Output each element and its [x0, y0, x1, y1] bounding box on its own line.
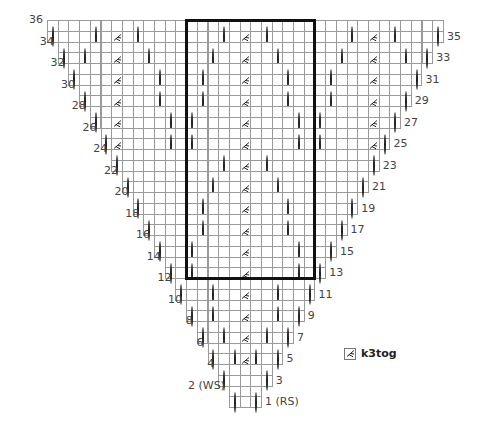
row-label-14: 14	[147, 251, 161, 262]
row-label-30: 30	[61, 79, 75, 90]
knitting-chart: 3635343332313029282726252423222120191817…	[0, 0, 477, 424]
legend: k3tog	[344, 347, 397, 360]
chart-cell	[336, 224, 348, 236]
yarn-over-icon	[405, 92, 407, 111]
row-label-13: 13	[329, 267, 343, 278]
chart-cell	[368, 160, 380, 172]
chart-cell	[411, 74, 423, 86]
yarn-over-icon	[266, 371, 268, 390]
row-label-16: 16	[136, 229, 150, 240]
yarn-over-icon	[437, 27, 439, 46]
row-label-4: 4	[207, 358, 214, 369]
yarn-over-icon	[319, 264, 321, 283]
yarn-over-icon	[287, 328, 289, 347]
row-label-9: 9	[308, 310, 315, 321]
chart-cell	[315, 267, 327, 279]
yarn-over-icon	[373, 156, 375, 175]
row-label-10: 10	[168, 294, 182, 305]
yarn-over-icon	[309, 285, 311, 304]
chart-cell	[272, 353, 284, 365]
chart-cell	[357, 181, 369, 193]
chart-cell	[261, 375, 273, 387]
yarn-over-icon	[394, 113, 396, 132]
yarn-over-icon	[351, 199, 353, 218]
row-label-24: 24	[93, 143, 107, 154]
row-label-26: 26	[83, 122, 97, 133]
row-label-19: 19	[361, 203, 375, 214]
yarn-over-icon	[234, 393, 236, 412]
row-label-34: 34	[40, 36, 54, 47]
row-label-8: 8	[186, 315, 193, 326]
row-label-12: 12	[157, 272, 171, 283]
yarn-over-icon	[277, 350, 279, 369]
yarn-over-icon	[330, 242, 332, 261]
row-label-36: 36	[29, 14, 43, 25]
row-label-33: 33	[436, 52, 450, 63]
chart-cell	[250, 396, 262, 408]
chart-cell	[422, 52, 434, 64]
yarn-over-icon	[298, 307, 300, 326]
row-label-1: 1 (RS)	[265, 396, 299, 407]
k3tog-icon	[344, 348, 356, 360]
chart-cell	[432, 31, 444, 43]
yarn-over-icon	[384, 135, 386, 154]
chart-cell	[379, 138, 391, 150]
legend-label-k3tog: k3tog	[361, 347, 397, 360]
row-label-35: 35	[447, 31, 461, 42]
chart-cell	[325, 246, 337, 258]
row-label-22: 22	[104, 165, 118, 176]
row-label-3: 3	[276, 375, 283, 386]
row-label-11: 11	[319, 289, 333, 300]
row-label-5: 5	[286, 353, 293, 364]
chart-cell	[389, 117, 401, 129]
chart-cell	[282, 332, 294, 344]
row-label-2: 2 (WS)	[188, 380, 225, 391]
row-label-25: 25	[393, 138, 407, 149]
row-label-21: 21	[372, 181, 386, 192]
yarn-over-icon	[426, 49, 428, 68]
chart-cell	[304, 289, 316, 301]
row-label-18: 18	[125, 208, 139, 219]
chart-cell	[347, 203, 359, 215]
yarn-over-icon	[416, 70, 418, 89]
row-label-28: 28	[72, 100, 86, 111]
row-label-20: 20	[115, 186, 129, 197]
yarn-over-icon	[341, 221, 343, 240]
row-label-29: 29	[415, 95, 429, 106]
row-label-27: 27	[404, 117, 418, 128]
chart-cell	[293, 310, 305, 322]
row-label-17: 17	[351, 224, 365, 235]
yarn-over-icon	[255, 393, 257, 412]
row-label-23: 23	[383, 160, 397, 171]
row-label-6: 6	[197, 337, 204, 348]
row-label-7: 7	[297, 332, 304, 343]
row-label-31: 31	[426, 74, 440, 85]
row-label-15: 15	[340, 246, 354, 257]
yarn-over-icon	[362, 178, 364, 197]
row-label-32: 32	[50, 57, 64, 68]
chart-cell	[400, 95, 412, 107]
